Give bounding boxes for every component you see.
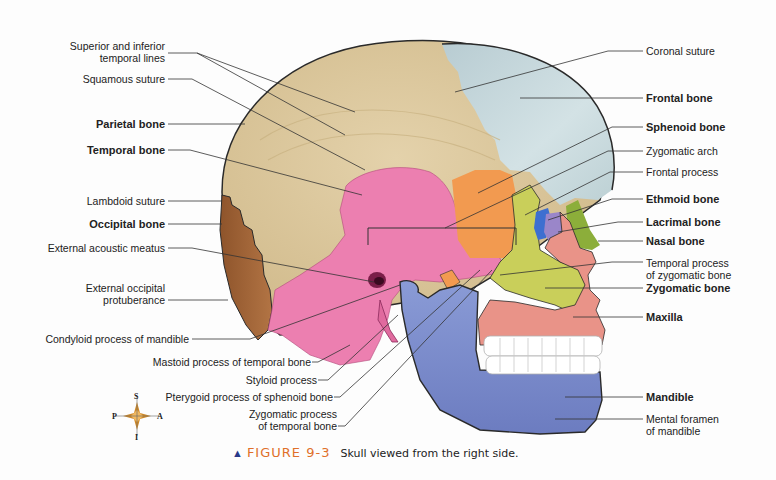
label-coronal-suture: Coronal suture [646, 45, 715, 57]
label-temporal-bone: Temporal bone [87, 144, 165, 156]
compass-inferior: I [135, 433, 138, 442]
triangle-icon: ▲ [232, 447, 243, 459]
label-occipital-bone: Occipital bone [89, 218, 165, 230]
label-styloid-process: Styloid process [246, 374, 317, 386]
label-lacrimal-bone: Lacrimal bone [646, 216, 721, 228]
label-external-occipital-protuberance: External occipital protuberance [86, 282, 165, 306]
figure-number: FIGURE 9-3 [247, 445, 331, 460]
label-mental-foramen: Mental foramen of mandible [646, 413, 719, 437]
compass-posterior: P [112, 412, 117, 421]
label-condyloid-process: Condyloid process of mandible [45, 333, 189, 345]
label-maxilla: Maxilla [646, 311, 683, 323]
compass-superior: S [134, 392, 138, 401]
label-external-acoustic-meatus: External acoustic meatus [48, 242, 165, 254]
label-mandible: Mandible [646, 391, 694, 403]
label-zygomatic-arch: Zygomatic arch [646, 145, 718, 157]
label-frontal-process: Frontal process [646, 166, 718, 178]
teeth [484, 336, 602, 374]
label-nasal-bone: Nasal bone [646, 235, 705, 247]
label-temporal-process-zygomatic: Temporal process of zygomatic bone [646, 257, 731, 281]
label-squamous-suture: Squamous suture [83, 73, 165, 85]
label-lambdoid-suture: Lambdoid suture [87, 195, 165, 207]
label-zygomatic-bone: Zygomatic bone [646, 282, 730, 294]
skull-diagram: Superior and inferior temporal lines Squ… [0, 0, 776, 480]
compass-rose [115, 396, 159, 436]
label-ethmoid-bone: Ethmoid bone [646, 193, 719, 205]
label-pterygoid-process: Pterygoid process of sphenoid bone [165, 391, 333, 403]
label-sphenoid-bone: Sphenoid bone [646, 121, 725, 133]
caption-text: Skull viewed from the right side. [340, 447, 518, 460]
figure-caption: ▲FIGURE 9-3Skull viewed from the right s… [232, 445, 519, 460]
label-parietal-bone: Parietal bone [96, 118, 165, 130]
sphenoid-bone-region [452, 170, 520, 258]
label-frontal-bone: Frontal bone [646, 92, 713, 104]
label-zygomatic-process-temporal: Zygomatic process of temporal bone [249, 408, 337, 432]
compass-anterior: A [157, 412, 163, 421]
label-mastoid-process: Mastoid process of temporal bone [153, 356, 311, 368]
label-superior-inferior-temporal-lines: Superior and inferior temporal lines [70, 40, 165, 64]
